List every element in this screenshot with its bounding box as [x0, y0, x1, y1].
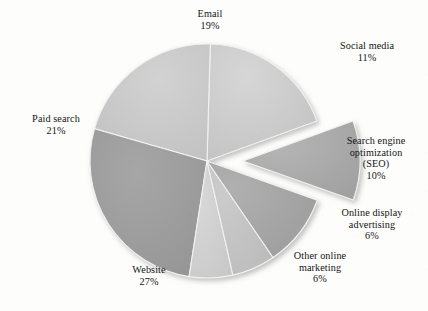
slice-label-email: Email 19% [160, 8, 260, 31]
slice-label-website-name: Website [102, 264, 196, 276]
slice-label-paid-search-name: Paid search [8, 113, 104, 125]
slice-label-social-media: Social media 11% [312, 40, 422, 63]
slice-label-seo: Search engine optimization (SEO) 10% [326, 135, 426, 181]
slice-label-seo-line2: optimization [326, 147, 426, 159]
slice-label-email-name: Email [160, 8, 260, 20]
slice-label-seo-percent: 10% [326, 170, 426, 182]
slice-label-website: Website 27% [102, 264, 196, 287]
slice-label-paid-search-percent: 21% [8, 125, 104, 137]
slice-label-online-display-advertising-line2: advertising [318, 219, 426, 231]
slice-label-other-online-marketing-line1: Other online [272, 250, 368, 262]
slice-label-paid-search: Paid search 21% [8, 113, 104, 136]
slice-label-social-media-name: Social media [312, 40, 422, 52]
slice-label-seo-line1: Search engine [326, 135, 426, 147]
slice-label-seo-line3: (SEO) [326, 158, 426, 170]
slice-label-online-display-advertising-percent: 6% [318, 230, 426, 242]
pie-chart: Email 19% Social media 11% Search engine… [0, 0, 428, 311]
slice-label-email-percent: 19% [160, 20, 260, 32]
slice-label-other-online-marketing-line2: marketing [272, 262, 368, 274]
slice-label-social-media-percent: 11% [312, 52, 422, 64]
slice-label-other-online-marketing-percent: 6% [272, 273, 368, 285]
slice-label-website-percent: 27% [102, 276, 196, 288]
slice-label-other-online-marketing: Other online marketing 6% [272, 250, 368, 285]
slice-label-online-display-advertising-line1: Online display [318, 207, 426, 219]
slice-label-online-display-advertising: Online display advertising 6% [318, 207, 426, 242]
